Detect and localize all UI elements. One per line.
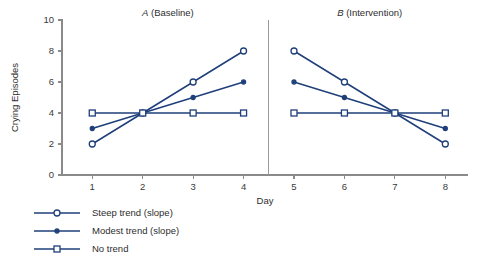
x-tick-label: 3	[190, 181, 195, 192]
x-axis-ticks	[92, 175, 445, 179]
legend-item-1[interactable]: Steep trend (slope)	[34, 207, 173, 218]
data-point-3-2	[140, 110, 146, 116]
legend-label: Steep trend (slope)	[92, 207, 173, 218]
x-tick-label: 1	[90, 181, 95, 192]
y-axis-ticks	[58, 20, 62, 175]
data-point-legend-2	[55, 229, 59, 233]
x-axis-tick-labels: 12345678	[90, 181, 448, 192]
chart-axes	[58, 20, 468, 179]
y-tick-label: 4	[49, 107, 54, 118]
legend-label: Modest trend (slope)	[92, 225, 179, 236]
panel-b-title: B (Intervention)	[337, 7, 402, 18]
data-point-1-6	[341, 79, 347, 85]
data-point-1-4	[241, 48, 247, 54]
data-point-legend-3	[54, 246, 60, 252]
data-point-3-6	[341, 110, 347, 116]
data-point-3-1	[89, 110, 95, 116]
series-line-panel-a	[92, 51, 243, 144]
y-tick-label: 8	[49, 45, 54, 56]
data-point-3-5	[291, 110, 297, 116]
x-tick-label: 6	[342, 181, 347, 192]
series-line-panel-b	[294, 82, 445, 129]
panel-a-title: A (Baseline)	[141, 7, 194, 18]
y-tick-label: 2	[49, 138, 54, 149]
data-point-2-5	[292, 80, 296, 84]
data-point-3-4	[241, 110, 247, 116]
chart-legend: Steep trend (slope)Modest trend (slope)N…	[34, 207, 179, 254]
data-point-2-3	[191, 95, 195, 99]
y-tick-label: 10	[43, 14, 54, 25]
y-tick-label: 6	[49, 76, 54, 87]
legend-label: No trend	[92, 243, 128, 254]
data-point-3-8	[442, 110, 448, 116]
y-tick-label: 0	[49, 169, 54, 180]
x-tick-label: 5	[291, 181, 296, 192]
y-axis-line	[58, 20, 62, 175]
x-tick-label: 7	[392, 181, 397, 192]
y-axis-tick-labels: 0246810	[43, 14, 54, 180]
y-axis-title: Crying Episodes	[9, 63, 20, 132]
chart-figure: 0246810 12345678 Crying Episodes Day A (…	[0, 0, 481, 261]
data-point-2-1	[90, 126, 94, 130]
legend-item-3[interactable]: No trend	[34, 243, 128, 254]
data-point-3-7	[392, 110, 398, 116]
data-point-legend-1	[54, 210, 60, 216]
data-point-2-8	[443, 126, 447, 130]
x-tick-label: 4	[241, 181, 246, 192]
series-line-panel-b	[294, 51, 445, 144]
x-tick-label: 2	[140, 181, 145, 192]
crying-episodes-line-chart: 0246810 12345678 Crying Episodes Day A (…	[0, 0, 481, 261]
legend-item-2[interactable]: Modest trend (slope)	[34, 225, 179, 236]
x-axis-title: Day	[257, 195, 274, 206]
data-point-1-8	[442, 141, 448, 147]
data-point-3-3	[190, 110, 196, 116]
data-point-1-1	[89, 141, 95, 147]
series-line-panel-a	[92, 82, 243, 129]
data-point-2-6	[342, 95, 346, 99]
data-point-1-3	[190, 79, 196, 85]
data-point-1-5	[291, 48, 297, 54]
x-tick-label: 8	[443, 181, 448, 192]
data-point-2-4	[241, 80, 245, 84]
